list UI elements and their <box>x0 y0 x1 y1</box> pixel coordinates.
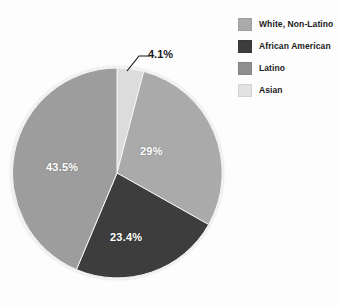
legend-swatch-icon-white-non-latino <box>238 18 252 31</box>
pie-slice-group <box>13 68 223 278</box>
legend-swatch-icon-latino <box>238 62 252 75</box>
legend-label-latino: Latino <box>259 63 285 73</box>
pie-slices <box>8 64 226 282</box>
legend-item-white-non-latino[interactable]: White, Non-Latino <box>238 14 338 34</box>
legend-label-african-american: African American <box>259 41 331 51</box>
chart-legend: White, Non-Latino African American Latin… <box>238 14 338 102</box>
legend-swatch-icon-asian <box>238 84 252 97</box>
slice-label-african-american: 23.4% <box>110 231 142 243</box>
legend-label-asian: Asian <box>259 85 283 95</box>
legend-item-african-american[interactable]: African American <box>238 36 338 56</box>
legend-item-asian[interactable]: Asian <box>238 80 338 100</box>
legend-item-latino[interactable]: Latino <box>238 58 338 78</box>
legend-swatch-icon-african-american <box>238 40 252 53</box>
slice-label-latino: 43.5% <box>46 161 78 173</box>
slice-label-white-non-latino: 29% <box>140 145 163 157</box>
pie-chart-figure: 29% 43.5% 23.4% 4.1% White, Non-Latino A… <box>0 0 338 307</box>
pie-chart-area <box>8 64 226 292</box>
slice-label-asian: 4.1% <box>148 48 173 60</box>
legend-label-white-non-latino: White, Non-Latino <box>259 19 333 29</box>
